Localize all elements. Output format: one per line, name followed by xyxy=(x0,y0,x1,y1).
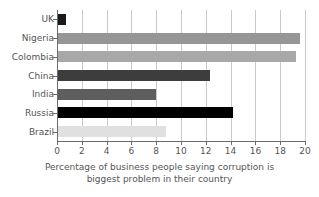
x-tick xyxy=(82,141,83,145)
x-axis-label-2: 2 xyxy=(70,146,94,157)
bar-india xyxy=(57,89,156,100)
y-axis-label-nigeria: Nigeria xyxy=(2,33,54,43)
x-axis-label-12: 12 xyxy=(194,146,218,157)
x-axis-label-8: 8 xyxy=(144,146,168,157)
x-axis-caption: Percentage of business people saying cor… xyxy=(0,161,319,185)
x-tick xyxy=(131,141,132,145)
x-tick xyxy=(231,141,232,145)
plot-area xyxy=(57,10,305,141)
x-axis-label-6: 6 xyxy=(119,146,143,157)
x-tick xyxy=(305,141,306,145)
x-axis-label-10: 10 xyxy=(169,146,193,157)
y-axis-labels: UKNigeriaColombiaChinaIndiaRussiaBrazil xyxy=(0,10,54,141)
y-axis-label-brazil: Brazil xyxy=(2,127,54,137)
x-axis-label-18: 18 xyxy=(268,146,292,157)
gridline xyxy=(305,10,306,141)
bar-china xyxy=(57,70,210,81)
caption-line-2: biggest problem in their country xyxy=(0,173,319,185)
y-axis-label-china: China xyxy=(2,71,54,81)
x-tick xyxy=(206,141,207,145)
bar-chart: UKNigeriaColombiaChinaIndiaRussiaBrazil … xyxy=(0,0,319,197)
caption-line-1: Percentage of business people saying cor… xyxy=(0,161,319,173)
x-axis-label-0: 0 xyxy=(45,146,69,157)
x-tick xyxy=(255,141,256,145)
bar-russia xyxy=(57,107,233,118)
x-tick xyxy=(57,141,58,145)
x-axis-label-16: 16 xyxy=(243,146,267,157)
bar-colombia xyxy=(57,51,296,62)
x-tick xyxy=(107,141,108,145)
bars-layer xyxy=(57,10,305,141)
x-tick xyxy=(156,141,157,145)
x-tick xyxy=(280,141,281,145)
bar-uk xyxy=(57,14,66,25)
y-axis-label-india: India xyxy=(2,89,54,99)
x-tick xyxy=(181,141,182,145)
bar-nigeria xyxy=(57,33,300,44)
x-axis-label-14: 14 xyxy=(219,146,243,157)
y-axis-label-colombia: Colombia xyxy=(2,52,54,62)
x-axis-label-20: 20 xyxy=(293,146,317,157)
y-axis-label-russia: Russia xyxy=(2,108,54,118)
bar-brazil xyxy=(57,126,166,137)
x-axis-label-4: 4 xyxy=(95,146,119,157)
y-axis-label-uk: UK xyxy=(2,14,54,24)
